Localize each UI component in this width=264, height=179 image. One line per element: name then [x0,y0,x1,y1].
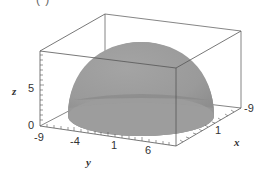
z-axis-ticks [40,55,44,120]
z-tick-5: 5 [28,82,34,94]
hemisphere-3d-plot: z 5 0 -9 -4 1 6 y -9 1 x [0,0,264,179]
y-tick-6: 6 [145,144,151,156]
hemisphere-surface [68,42,214,136]
y-axis-label: y [84,156,91,168]
y-tick-neg9: -9 [34,131,44,143]
z-tick-0: 0 [28,119,34,131]
y-tick-neg4: -4 [70,135,80,147]
y-tick-1: 1 [111,139,117,151]
x-tick-neg9: -9 [244,102,254,114]
x-axis-label: x [233,136,240,148]
z-axis-label: z [11,85,17,97]
x-tick-1: 1 [215,124,221,136]
